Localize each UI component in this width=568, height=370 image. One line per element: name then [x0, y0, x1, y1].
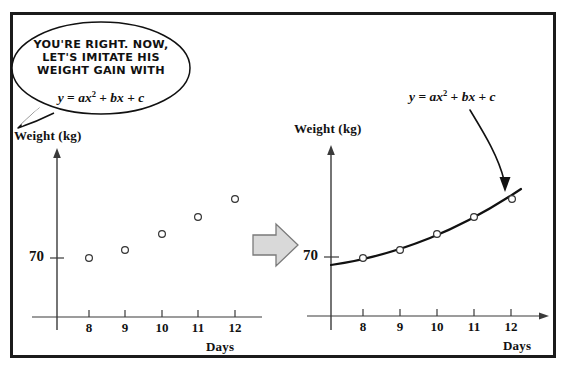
eq-term1-coef: a	[78, 90, 85, 105]
left-y-axis-arrowhead	[53, 148, 61, 158]
right-y-axis-title: Weight (kg)	[294, 121, 362, 137]
right-x-tick-label-10: 10	[425, 319, 449, 335]
right-x-tick-label-8: 8	[355, 319, 371, 335]
eq-term2-var: x	[117, 90, 124, 105]
right-chart-data-points	[360, 196, 516, 262]
block-arrow-right-icon	[253, 224, 298, 266]
data-point	[397, 247, 404, 254]
left-chart-data-points	[86, 196, 239, 262]
right-chart-axes	[307, 145, 549, 330]
right-x-axis-title: Days	[503, 338, 531, 354]
annot-eq-term1-exp: 2	[443, 88, 447, 98]
data-point	[122, 247, 129, 254]
annot-eq-term1-var: x	[436, 89, 443, 104]
right-x-axis-arrowhead	[539, 312, 549, 319]
data-point	[434, 231, 441, 238]
speech-bubble-line-1: YOU'RE RIGHT. NOW,	[16, 38, 186, 51]
data-point	[86, 255, 93, 262]
data-point	[509, 196, 516, 203]
right-x-tick-label-9: 9	[392, 319, 408, 335]
data-point	[195, 214, 202, 221]
fitted-quadratic-curve	[331, 189, 521, 265]
eq-term3: c	[138, 90, 144, 105]
annot-eq-term2-var: x	[468, 89, 475, 104]
annot-eq-plus-2: +	[479, 89, 487, 104]
left-x-tick-label-11: 11	[186, 320, 210, 336]
right-x-tick-label-12: 12	[499, 319, 523, 335]
curved-annotation-arrow-icon	[470, 110, 511, 192]
right-x-tick-label-11: 11	[462, 319, 486, 335]
left-y-tick-label-70: 70	[29, 248, 44, 265]
annot-eq-lhs: y	[409, 89, 415, 104]
annot-eq-equals: =	[418, 89, 426, 104]
annot-eq-term3: c	[490, 89, 496, 104]
annotation-equation: y = ax2 + bx + c	[409, 87, 496, 105]
figure-canvas: YOU'RE RIGHT. NOW, LET'S IMITATE HIS WEI…	[0, 0, 568, 370]
eq-term1-exp: 2	[92, 89, 96, 99]
eq-plus-2: +	[127, 90, 135, 105]
left-x-axis-title: Days	[206, 339, 234, 355]
data-point	[360, 255, 367, 262]
left-chart-axes	[32, 148, 262, 330]
speech-bubble-line-2: LET'S IMITATE HIS	[16, 51, 186, 64]
eq-term1-var: x	[85, 90, 92, 105]
eq-plus-1: +	[99, 90, 107, 105]
left-x-tick-label-12: 12	[223, 320, 247, 336]
speech-bubble-line-3: WEIGHT GAIN WITH	[16, 64, 186, 77]
left-x-tick-label-8: 8	[81, 320, 97, 336]
right-y-tick-label-70: 70	[303, 247, 318, 264]
eq-equals: =	[67, 90, 75, 105]
speech-bubble-equation: y = ax2 + bx + c	[16, 88, 186, 106]
annot-eq-plus-1: +	[451, 89, 459, 104]
left-x-tick-label-9: 9	[117, 320, 133, 336]
left-y-axis-title: Weight (kg)	[14, 128, 82, 144]
eq-lhs: y	[58, 90, 64, 105]
speech-bubble-text: YOU'RE RIGHT. NOW, LET'S IMITATE HIS WEI…	[16, 38, 186, 77]
right-y-axis-arrowhead	[327, 145, 335, 155]
data-point	[159, 231, 166, 238]
data-point	[471, 214, 478, 221]
left-x-tick-label-10: 10	[150, 320, 174, 336]
data-point	[232, 196, 239, 203]
